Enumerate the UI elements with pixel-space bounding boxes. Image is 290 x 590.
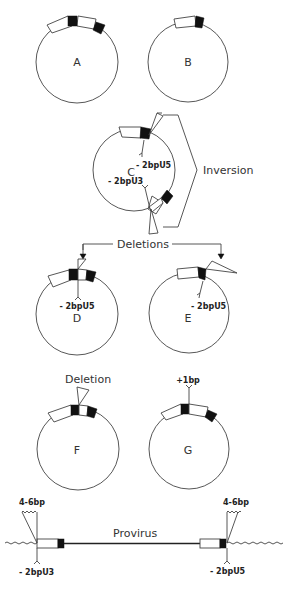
circle-e: - 2bpU5 E (149, 261, 237, 353)
provirus-right-bottom-label: - 2bpU5 (210, 567, 246, 576)
provirus-left-top-label: 4-6bp (19, 498, 45, 507)
circle-e-annotation: - 2bpU5 (191, 302, 227, 311)
circle-g-annotation: +1bp (176, 376, 200, 385)
provirus-label: Provirus (113, 527, 158, 540)
circle-d-annotation: - 2bpU5 (59, 302, 95, 311)
circle-g-label: G (184, 444, 193, 457)
circle-d-label: D (73, 312, 81, 325)
circle-c-annotation-u5: - 2bpU5 (136, 161, 172, 170)
provirus: Provirus 4-6bp - 2bpU3 4-6bp - 2bpU5 (5, 498, 283, 577)
circle-c-annotation-u3: - 2bpU3 (108, 177, 143, 186)
circle-c: - 2bpU5 C - 2bpU3 (93, 113, 175, 234)
circle-f: Deletion F (37, 373, 119, 490)
circle-a-label: A (73, 56, 81, 69)
inversion-bracket: Inversion (163, 115, 254, 227)
circle-b: B (148, 16, 228, 102)
provirus-left-bottom-label: - 2bpU3 (19, 568, 54, 577)
circle-g: +1bp G (149, 376, 229, 489)
circle-e-label: E (185, 312, 192, 325)
deletions-label: Deletions (117, 238, 169, 251)
circle-a: A (36, 16, 118, 103)
deletions-arrows: Deletions (80, 238, 224, 259)
retroviral-dna-diagram: A B - 2bpU5 C - 2bpU3 Inversion (0, 0, 290, 590)
inversion-label: Inversion (203, 164, 254, 177)
provirus-right-top-label: 4-6bp (223, 498, 249, 507)
circle-b-label: B (184, 56, 192, 69)
circle-f-label: F (74, 444, 80, 457)
circle-d: - 2bpU5 D (36, 259, 118, 355)
circle-f-annotation: Deletion (65, 373, 111, 386)
